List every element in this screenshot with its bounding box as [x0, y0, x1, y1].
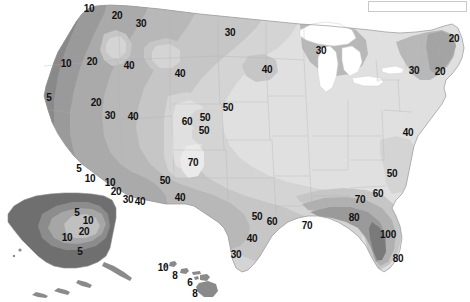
contour-label-northern-rockies: 30	[136, 19, 147, 29]
hawaii-molokai	[192, 271, 201, 275]
contour-label-pacific-northwest: 10	[84, 4, 95, 14]
contour-label-montana: 40	[124, 61, 135, 71]
contour-label-alabama: 70	[355, 195, 366, 205]
contour-label-georgia: 60	[373, 189, 384, 199]
contour-label-colorado: 50	[200, 113, 211, 123]
contour-label-pacific-northwest: 20	[112, 11, 123, 21]
contour-label-florida-peninsula: 80	[393, 254, 404, 264]
contour-label-maine: 20	[449, 34, 460, 44]
contour-label-texas-rio-grande: 30	[231, 250, 242, 260]
contour-label-alaska-southcentral: 20	[79, 227, 90, 237]
legend-box	[368, 1, 467, 12]
hawaii-lanai	[194, 276, 199, 280]
contour-label-wyoming-north: 40	[175, 69, 186, 79]
contour-label-alaska-south: 5	[77, 247, 82, 257]
contour-label-arizona-south: 30	[123, 195, 134, 205]
contour-label-louisiana-west: 70	[302, 221, 313, 231]
contour-label-idaho: 20	[87, 57, 98, 67]
contour-label-colorado-mountains: 70	[188, 158, 199, 168]
contour-label-new-mexico-west: 50	[160, 176, 171, 186]
contour-label-hawaii-oahu: 8	[172, 271, 177, 281]
contour-label-utah: 40	[128, 112, 139, 122]
contour-label-texas-east: 60	[267, 217, 278, 227]
contour-label-new-mexico: 40	[175, 193, 186, 203]
hawaii-maui	[200, 274, 210, 281]
contour-label-southern-california-inland: 10	[85, 174, 96, 184]
contour-label-southern-california: 5	[76, 164, 81, 174]
hawaii-kauai	[169, 261, 177, 267]
contour-label-texas-south: 40	[247, 234, 258, 244]
contour-label-alaska-north: 5	[74, 208, 79, 218]
contour-label-arizona: 20	[111, 187, 122, 197]
contour-label-south-carolina: 50	[387, 169, 398, 179]
contour-label-south-florida: 100	[380, 230, 396, 240]
contour-label-nebraska: 50	[223, 103, 234, 113]
contour-label-gulf-coast: 80	[349, 213, 360, 223]
hawaii-oahu	[180, 268, 189, 274]
contour-label-great-lakes-north: 30	[316, 46, 327, 56]
contour-label-new-york: 30	[409, 66, 420, 76]
contour-label-nevada: 30	[105, 111, 116, 121]
contour-label-colorado-west: 60	[182, 117, 193, 127]
contour-label-hawaii-big-island: 8	[192, 289, 197, 299]
contour-label-colorado-south: 50	[199, 126, 210, 136]
contour-label-alaska-interior: 10	[83, 216, 94, 226]
contour-map-figure: 1020303010204040403030202052030405060505…	[0, 0, 470, 302]
hawaii-big-island	[196, 281, 218, 297]
contour-label-hawaii-maui: 6	[187, 278, 192, 288]
contour-label-southern-new-england: 20	[435, 67, 446, 77]
contour-label-north-dakota: 40	[262, 65, 273, 75]
contour-label-northern-plains: 30	[225, 28, 236, 38]
contour-label-new-mexico-southwest: 40	[135, 197, 146, 207]
contour-label-mid-atlantic: 40	[403, 128, 414, 138]
contour-label-oregon: 10	[61, 59, 72, 69]
contour-label-alaska-southwest: 10	[62, 233, 73, 243]
contour-label-hawaii-kauai: 10	[158, 263, 169, 273]
contour-label-northern-california: 5	[46, 93, 51, 103]
contour-label-texas-central: 50	[252, 212, 263, 222]
contour-label-nevada-north: 20	[91, 98, 102, 108]
